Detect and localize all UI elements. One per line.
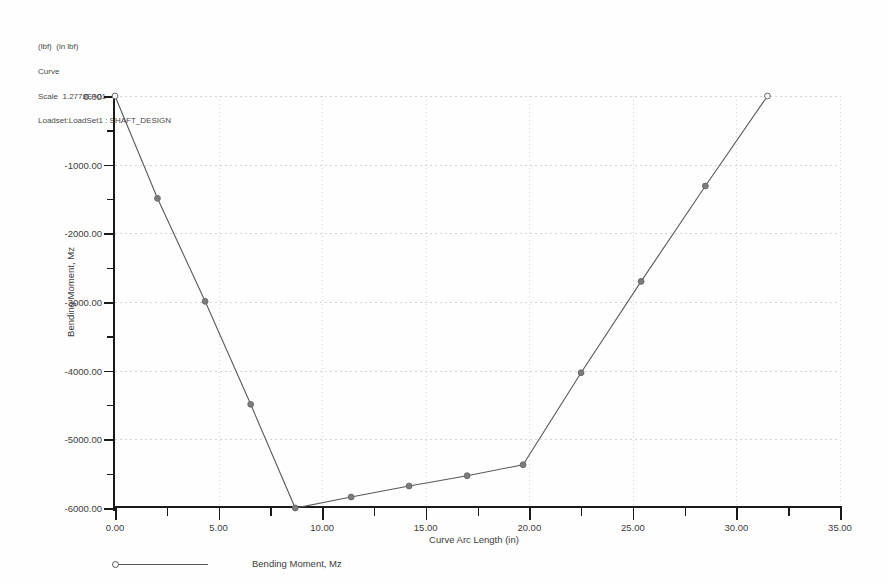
x-tick-major [219,508,221,520]
data-point-marker [638,279,644,285]
data-point-marker [765,93,771,99]
x-tick-minor [581,508,582,516]
x-tick-minor [270,508,271,516]
y-tick-label: -5000.00 [64,434,102,445]
x-tick-label: 5.00 [209,522,228,533]
legend-series-label: Bending Moment, Mz [252,558,342,569]
data-point-marker [348,494,354,500]
series-line [115,96,768,508]
header-units-line: (lbf) (in lbf) [38,43,171,51]
legend-line-icon [112,564,208,565]
data-point-marker [202,298,208,304]
x-tick-label: 35.00 [828,522,852,533]
y-tick-major [104,302,115,304]
y-tick-label: -6000.00 [64,503,102,514]
chart-canvas: (lbf) (in lbf) Curve Scale 1.2778E+01 Lo… [0,0,888,584]
y-tick-minor [107,405,115,406]
x-tick-minor [374,508,375,516]
circle-marker-icon [112,561,119,568]
x-tick-label: 20.00 [517,522,541,533]
x-tick-major [736,508,738,520]
y-tick-label: -4000.00 [64,365,102,376]
gridline-vertical [840,96,841,508]
data-point-marker [112,93,118,99]
header-curve-line: Curve [38,68,171,76]
y-tick-major [104,233,115,235]
series-bending-moment-mz [115,96,840,508]
x-tick-major [322,508,324,520]
data-point-marker [702,183,708,189]
x-tick-major [840,508,842,520]
x-tick-minor [685,508,686,516]
x-tick-major [115,508,117,520]
x-tick-label: 15.00 [414,522,438,533]
y-tick-minor [107,336,115,337]
y-axis-title: Bending Moment, Mz [65,247,76,337]
x-tick-major [633,508,635,520]
x-tick-minor [788,508,789,516]
y-tick-minor [107,474,115,475]
data-point-marker [520,462,526,468]
y-tick-label: -2000.00 [64,228,102,239]
x-tick-major [529,508,531,520]
x-tick-label: 0.00 [106,522,125,533]
data-point-marker [155,195,161,201]
x-axis-title: Curve Arc Length (in) [0,534,888,545]
x-tick-major [426,508,428,520]
data-point-marker [464,473,470,479]
data-point-marker [578,370,584,376]
y-tick-minor [107,130,115,131]
x-tick-minor [167,508,168,516]
y-tick-major [104,371,115,373]
plot-area: 0.005.0010.0015.0020.0025.0030.0035.000.… [115,96,840,508]
x-tick-label: 10.00 [310,522,334,533]
x-tick-label: 30.00 [725,522,749,533]
x-tick-label: 25.00 [621,522,645,533]
chart-legend: Bending Moment, Mz [112,558,342,569]
data-point-marker [248,401,254,407]
y-tick-major [104,508,115,510]
y-tick-label: -3000.00 [64,297,102,308]
y-tick-major [104,439,115,441]
legend-marker-sample [112,559,208,569]
y-tick-label: 0.00 [84,91,103,102]
y-tick-minor [107,199,115,200]
y-tick-major [104,165,115,167]
data-point-marker [292,505,298,511]
x-tick-minor [478,508,479,516]
y-tick-minor [107,268,115,269]
data-point-marker [406,483,412,489]
y-tick-label: -1000.00 [64,159,102,170]
